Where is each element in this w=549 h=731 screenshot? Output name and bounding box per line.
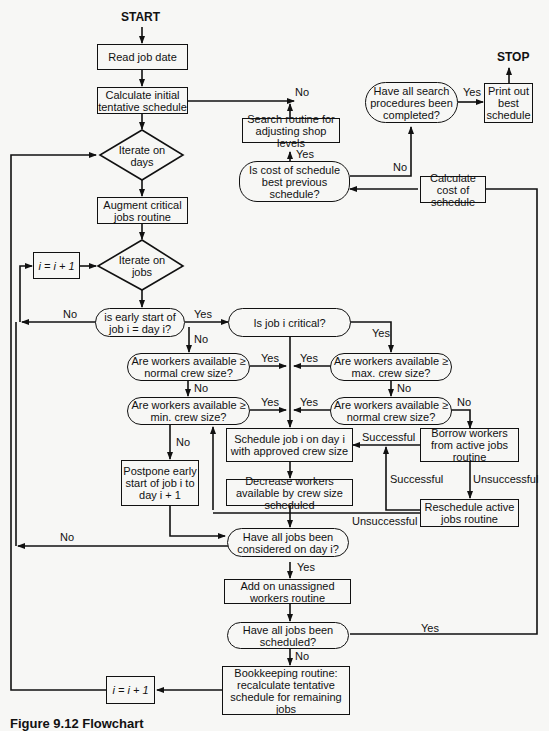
workers-max-label: Are workers available ≥ max. crew size? [331, 355, 451, 379]
add-unassigned-workers-box: Add on unassigned workers routine [224, 579, 351, 604]
early-start-decision: is early start of job i = day i? [95, 308, 185, 337]
edge-label-no: No [63, 308, 77, 320]
is-critical-label: Is job i critical? [253, 317, 325, 329]
cost-best-label: Is cost of schedule best previous schedu… [240, 164, 349, 200]
bookkeeping-routine-box: Bookkeeping routine: recalculate tentati… [222, 666, 350, 715]
early-start-label: is early start of job i = day i? [96, 311, 184, 335]
edge-label-no: No [176, 436, 190, 448]
cost-best-decision: Is cost of schedule best previous schedu… [239, 161, 350, 202]
all-jobs-considered-decision: Have all jobs been considered on day i? [227, 528, 349, 557]
augment-critical-jobs-box: Augment critical jobs routine [97, 197, 188, 224]
bookkeeping-label: Bookkeeping routine: recalculate tentati… [223, 667, 349, 715]
edge-label-yes: Yes [463, 86, 481, 98]
workers-min-decision: Are workers available ≥ min. crew size? [127, 397, 250, 425]
increment-i-box-top: i = i + 1 [33, 252, 80, 279]
read-job-date-box: Read job date [97, 44, 188, 70]
reschedule-active-jobs-box: Reschedule active jobs routine [420, 499, 519, 527]
workers-normal-left-label: Are workers available ≥ normal crew size… [128, 355, 249, 379]
read-job-date-label: Read job date [108, 51, 177, 63]
schedule-job-label: Schedule job i on day i with approved cr… [227, 433, 352, 457]
increment-i-label: i = i + 1 [38, 260, 74, 272]
augment-label: Augment critical jobs routine [98, 199, 187, 223]
stop-terminal: STOP [497, 50, 529, 64]
postpone-label: Postpone early start of job i to day i +… [122, 465, 198, 501]
decrease-workers-box: Decrease workers available by crew size … [226, 479, 353, 506]
search-complete-decision: Have all search procedures been complete… [365, 82, 458, 123]
borrow-workers-box: Borrow workers from active jobs routine [420, 428, 519, 462]
edge-label-no: No [60, 531, 74, 543]
edge-label-no: No [295, 650, 309, 662]
edge-label-yes: Yes [296, 148, 314, 160]
edge-label-yes: Yes [261, 396, 279, 408]
workers-min-label: Are workers available ≥ min. crew size? [128, 399, 249, 423]
edge-label-yes: Yes [194, 308, 212, 320]
print-best-schedule-box: Print out best schedule [484, 83, 533, 123]
calculate-cost-label: Calculate cost of schedule [421, 172, 485, 208]
edge-label-yes: Yes [300, 352, 318, 364]
edge-label-no: No [457, 396, 471, 408]
edge-label-unsuccessful: Unsuccessful [473, 473, 538, 485]
print-best-label: Print out best schedule [485, 85, 532, 121]
iterate-jobs-label: Iterate on jobs [110, 254, 174, 278]
workers-normal-left-decision: Are workers available ≥ normal crew size… [127, 353, 250, 381]
iterate-on-days-diamond: Iterate on days [110, 143, 174, 169]
all-scheduled-label: Have all jobs been scheduled? [228, 624, 348, 648]
calculate-initial-schedule-box: Calculate initial tentative schedule [97, 87, 188, 114]
edge-label-yes: Yes [300, 396, 318, 408]
search-routine-label: Search routine for adjusting shop levels [243, 113, 339, 149]
decrease-workers-label: Decrease workers available by crew size … [227, 475, 352, 511]
edge-label-yes: Yes [261, 352, 279, 364]
all-jobs-scheduled-decision: Have all jobs been scheduled? [227, 622, 349, 649]
edge-label-no: No [393, 161, 407, 173]
start-terminal: START [121, 10, 160, 24]
calculate-cost-box: Calculate cost of schedule [420, 176, 486, 203]
postpone-early-start-box: Postpone early start of job i to day i +… [121, 460, 199, 506]
search-routine-box: Search routine for adjusting shop levels [242, 118, 340, 143]
edge-label-yes: Yes [372, 327, 390, 339]
increment-i-box-bottom: i = i + 1 [106, 676, 155, 704]
edge-label-no: No [397, 382, 411, 394]
borrow-workers-label: Borrow workers from active jobs routine [421, 427, 518, 463]
edge-label-no: No [295, 86, 309, 98]
edge-label-unsuccessful: Unsuccessful [352, 515, 417, 527]
edge-label-successful: Successful [390, 473, 443, 485]
calculate-initial-label: Calculate initial tentative schedule [98, 89, 187, 113]
edge-label-no: No [194, 382, 208, 394]
figure-caption: Figure 9.12 Flowchart [10, 716, 144, 731]
iterate-days-label: Iterate on days [110, 144, 174, 168]
edge-label-yes: Yes [297, 561, 315, 573]
is-critical-decision: Is job i critical? [228, 308, 351, 337]
edge-label-no: No [194, 333, 208, 345]
schedule-job-box: Schedule job i on day i with approved cr… [226, 428, 353, 462]
reschedule-label: Reschedule active jobs routine [421, 501, 518, 525]
workers-normal-right-label: Are workers available ≥ normal crew size… [331, 399, 451, 423]
add-unassigned-label: Add on unassigned workers routine [225, 580, 350, 604]
increment-i-bottom-label: i = i + 1 [112, 684, 148, 696]
search-complete-label: Have all search procedures been complete… [366, 85, 457, 121]
workers-normal-right-decision: Are workers available ≥ normal crew size… [330, 397, 452, 425]
all-considered-label: Have all jobs been considered on day i? [228, 531, 348, 555]
workers-max-decision: Are workers available ≥ max. crew size? [330, 353, 452, 381]
edge-label-yes: Yes [421, 622, 439, 634]
iterate-on-jobs-diamond: Iterate on jobs [110, 253, 174, 279]
edge-label-successful: Successful [362, 431, 415, 443]
